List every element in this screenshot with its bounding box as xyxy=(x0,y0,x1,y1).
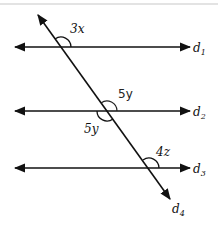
line-d3: d3 xyxy=(15,162,206,178)
angle-3x-label: 3x xyxy=(70,22,85,36)
line-d2-subscript: 2 xyxy=(200,112,206,121)
line-d3-subscript: 3 xyxy=(201,169,206,178)
line-d4-subscript: 4 xyxy=(179,209,185,218)
angle-5y-upper: 5y xyxy=(101,87,133,111)
parallel-lines-diagram: d1 d2 d3 d4 3x 5y 5y 4z xyxy=(0,0,218,226)
angle-4z: 4z xyxy=(143,145,171,168)
svg-text:d1: d1 xyxy=(193,41,206,57)
line-d2: d2 xyxy=(15,105,206,121)
svg-text:d4: d4 xyxy=(172,202,185,218)
svg-text:d3: d3 xyxy=(193,162,206,178)
svg-text:d2: d2 xyxy=(193,105,206,121)
angle-4z-label: 4z xyxy=(155,145,171,159)
transversal-d4: d4 xyxy=(38,15,185,218)
line-d1: d1 xyxy=(15,41,206,57)
line-d1-subscript: 1 xyxy=(201,48,206,57)
angle-3x: 3x xyxy=(55,22,85,47)
angle-5y-lower-label: 5y xyxy=(84,122,99,136)
angle-5y-upper-label: 5y xyxy=(118,87,133,101)
